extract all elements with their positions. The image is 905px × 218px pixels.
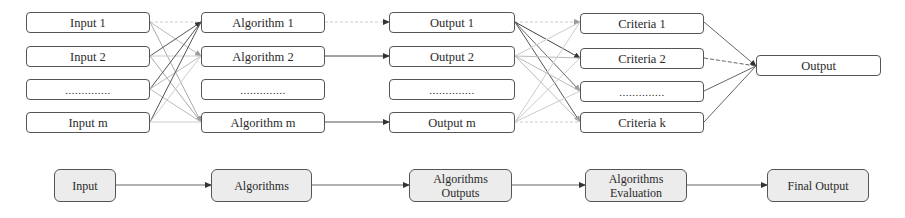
- input-box-2: Input 2: [26, 46, 150, 67]
- step-label-line2: Outputs: [441, 186, 479, 200]
- input-label: Input 1: [70, 16, 106, 30]
- criteria-box-2: Criteria 2: [580, 48, 704, 69]
- ellipsis-label: ..............: [240, 83, 286, 97]
- final-output-label: Output: [801, 59, 836, 73]
- ellipsis-label: ..............: [619, 85, 665, 99]
- algorithm-label: Algorithm 2: [232, 50, 293, 64]
- algorithm-label: Algorithm 1: [232, 16, 293, 30]
- ellipsis-label: ..............: [65, 83, 111, 97]
- input-box-1: Input 1: [26, 12, 150, 33]
- step-label-line1: Algorithms: [433, 172, 488, 186]
- criteria-box-ellipsis: ..............: [580, 81, 704, 102]
- output-box-m: Output m: [389, 112, 515, 133]
- input-box-ellipsis: ..............: [26, 79, 150, 100]
- step-label-line2: Evaluation: [610, 186, 662, 200]
- output-box-ellipsis: ..............: [389, 79, 515, 100]
- output-label: Output 1: [430, 16, 474, 30]
- output-label: Output m: [428, 116, 476, 130]
- step-label: Algorithms: [234, 179, 289, 193]
- output-box-1: Output 1: [389, 12, 515, 33]
- step-label: Final Output: [787, 179, 848, 193]
- ellipsis-label: ..............: [429, 83, 475, 97]
- algorithm-box-ellipsis: ..............: [201, 79, 325, 100]
- final-output-box: Output: [756, 55, 881, 76]
- step-algorithms-outputs: Algorithms Outputs: [409, 169, 512, 202]
- criteria-box-k: Criteria k: [580, 112, 704, 133]
- criteria-label: Criteria k: [618, 116, 666, 130]
- criteria-box-1: Criteria 1: [580, 13, 704, 34]
- output-label: Output 2: [430, 50, 474, 64]
- step-algorithms-evaluation: Algorithms Evaluation: [585, 169, 687, 202]
- step-label-line1: Algorithms: [609, 172, 664, 186]
- input-label: Input 2: [70, 50, 106, 64]
- algorithm-label: Algorithm m: [231, 116, 296, 130]
- step-algorithms: Algorithms: [211, 169, 312, 202]
- criteria-label: Criteria 2: [618, 52, 666, 66]
- algorithm-box-1: Algorithm 1: [201, 12, 325, 33]
- algorithm-box-2: Algorithm 2: [201, 46, 325, 67]
- step-input: Input: [54, 169, 116, 202]
- step-label: Input: [72, 179, 97, 193]
- output-box-2: Output 2: [389, 46, 515, 67]
- input-label: Input m: [68, 116, 107, 130]
- input-box-m: Input m: [26, 112, 150, 133]
- algorithm-box-m: Algorithm m: [201, 112, 325, 133]
- criteria-label: Criteria 1: [618, 17, 666, 31]
- step-final-output: Final Output: [767, 169, 869, 202]
